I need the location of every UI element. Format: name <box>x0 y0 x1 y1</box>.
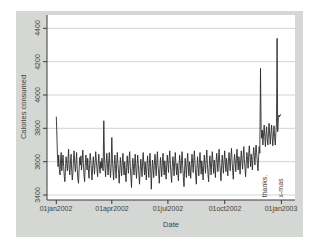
x-tick-label: 01jul2002 <box>153 205 183 212</box>
x-tick-label: 01oct2002 <box>209 205 242 212</box>
x-tick-label: 01apr2002 <box>95 205 128 212</box>
y-tick-label: 3800 <box>34 120 41 136</box>
calories-time-series-figure: Calories consumed Date 34003600380040004… <box>0 0 316 249</box>
y-axis-title: Calories consumed <box>19 75 28 139</box>
x-tick-label: 01jan2002 <box>40 205 73 212</box>
y-tick-label: 4400 <box>34 20 41 36</box>
event-annotation-thanksgiving-spike: thanks. <box>261 175 268 198</box>
page: { "figure": { "colors": { "page-bg": "#f… <box>0 0 316 249</box>
y-tick-label: 4200 <box>34 54 41 70</box>
graph-panel: Calories consumed Date 34003600380040004… <box>16 11 303 237</box>
plot-area <box>47 15 295 200</box>
y-tick-label: 3600 <box>34 154 41 170</box>
y-tick-label: 4000 <box>34 87 41 103</box>
x-axis-title: Date <box>163 220 179 229</box>
y-tick-label: 3400 <box>34 187 41 203</box>
x-tick-label: 01jan2003 <box>265 205 298 212</box>
event-annotation-christmas-spike: x-mas <box>277 178 284 197</box>
